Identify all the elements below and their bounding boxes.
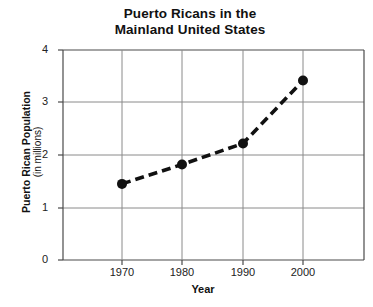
- data-point-2000: [298, 75, 308, 85]
- data-point-1990: [238, 138, 248, 148]
- data-point-1970: [117, 179, 127, 189]
- data-point-1980: [177, 159, 187, 169]
- plot-area: [0, 0, 373, 307]
- grid-lines: [63, 50, 364, 260]
- data-series-line: [122, 80, 303, 183]
- data-point-markers: [117, 75, 308, 188]
- tick-marks: [58, 50, 303, 265]
- chart-container: Puerto Ricans in the Mainland United Sta…: [0, 0, 373, 307]
